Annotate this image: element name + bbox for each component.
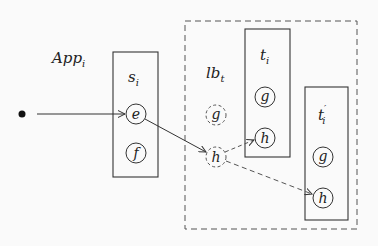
t-node-h-label: h [260, 130, 269, 146]
lb-label: lbt [206, 64, 225, 84]
box-t-i: ti g h [245, 29, 290, 157]
tp-node-g-label: g [319, 148, 328, 164]
node-f-label: f [132, 145, 141, 161]
tp-node-h-label: h [318, 190, 327, 206]
app-label: Appi [50, 49, 85, 69]
node-e-label: e [132, 106, 140, 122]
diagram-svg: Appi si e f lbt g h ti g h t′i g h [0, 0, 378, 246]
diagram-canvas: Appi si e f lbt g h ti g h t′i g h [0, 0, 378, 246]
arrow-lb-h-to-tp-h [226, 161, 312, 194]
box-t-prime-i: t′i g h [305, 87, 348, 220]
arrow-lb-h-to-t-h [225, 140, 254, 152]
box-t-i-label: ti [260, 46, 269, 66]
box-s-i-label: si [128, 68, 139, 88]
box-t-prime-i-label: t′i [318, 103, 327, 126]
arrow-e-to-lb-h [145, 119, 206, 152]
lb-node-h-label: h [211, 149, 220, 165]
start-dot [19, 111, 26, 118]
t-node-g-label: g [261, 88, 270, 104]
lb-node-g-label: g [212, 106, 221, 122]
lb-region [185, 21, 357, 229]
